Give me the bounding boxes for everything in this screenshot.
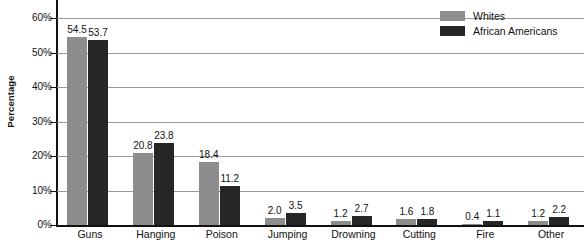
- x-axis-category-label: Guns: [57, 229, 123, 240]
- x-axis-category-label: Hanging: [123, 229, 189, 240]
- bar: [220, 186, 240, 225]
- y-axis-tick-mark: [50, 191, 56, 192]
- bar-value-label: 53.7: [85, 28, 111, 38]
- bar: [417, 219, 437, 225]
- bar: [154, 143, 174, 225]
- bar-chart: Percentage 0%10%20%30%40%50%60% 54.553.7…: [0, 0, 584, 246]
- bar: [199, 162, 219, 225]
- legend-item[interactable]: Whites: [440, 9, 584, 23]
- x-axis-category-label: Cutting: [386, 229, 452, 240]
- y-axis-tick-mark: [50, 53, 56, 54]
- x-axis-category-label: Fire: [452, 229, 518, 240]
- y-axis-tick-mark: [50, 156, 56, 157]
- y-axis-tick-label: 0%: [16, 220, 52, 230]
- legend-swatch: [440, 26, 465, 36]
- bar-value-label: 2.7: [349, 204, 375, 214]
- bar: [462, 224, 482, 225]
- bar-value-label: 1.1: [480, 209, 506, 219]
- bar: [396, 219, 416, 225]
- bar: [286, 213, 306, 225]
- y-axis-tick-label: 20%: [16, 151, 52, 161]
- bar-group: 0.41.1: [452, 18, 518, 225]
- chart-legend: WhitesAfrican Americans: [440, 9, 584, 39]
- plot-area: 54.553.720.823.818.411.22.03.51.22.71.61…: [57, 18, 584, 225]
- legend-label: Whites: [473, 10, 505, 22]
- bar-group: 1.22.7: [321, 18, 387, 225]
- bar: [265, 218, 285, 225]
- bar-value-label: 11.2: [217, 174, 243, 184]
- bar-group: 2.03.5: [255, 18, 321, 225]
- x-axis-category-label: Drowning: [321, 229, 387, 240]
- bar-value-label: 2.2: [546, 205, 572, 215]
- y-axis-tick-mark: [50, 225, 56, 226]
- bar: [483, 221, 503, 225]
- bar-group: 1.22.2: [518, 18, 584, 225]
- bar-group: 18.411.2: [189, 18, 255, 225]
- bar: [133, 153, 153, 225]
- y-axis-tick-mark: [50, 87, 56, 88]
- y-axis-tick-mark: [50, 18, 56, 19]
- bar: [549, 217, 569, 225]
- y-axis-tick-label: 50%: [16, 48, 52, 58]
- legend-swatch: [440, 11, 465, 21]
- bar: [352, 216, 372, 225]
- y-axis-tick-label: 40%: [16, 82, 52, 92]
- bar: [528, 221, 548, 225]
- bar: [67, 37, 87, 225]
- legend-label: African Americans: [473, 25, 558, 37]
- y-axis-tick-labels: 0%10%20%30%40%50%60%: [12, 0, 52, 246]
- x-axis-category-label: Poison: [189, 229, 255, 240]
- bar-group: 54.553.7: [57, 18, 123, 225]
- y-axis-tick-mark: [50, 122, 56, 123]
- x-axis-category-label: Jumping: [255, 229, 321, 240]
- x-axis-category-label: Other: [518, 229, 584, 240]
- legend-item[interactable]: African Americans: [440, 24, 584, 38]
- y-axis-tick-label: 30%: [16, 117, 52, 127]
- bar-group: 20.823.8: [123, 18, 189, 225]
- bar-value-label: 23.8: [151, 131, 177, 141]
- y-axis-tick-label: 10%: [16, 186, 52, 196]
- bar-value-label: 3.5: [283, 201, 309, 211]
- bar-value-label: 1.8: [414, 207, 440, 217]
- bar-group: 1.61.8: [386, 18, 452, 225]
- bar-value-label: 20.8: [130, 141, 156, 151]
- bar: [88, 40, 108, 225]
- bar: [331, 221, 351, 225]
- x-axis-baseline: [57, 225, 584, 227]
- bar-value-label: 18.4: [196, 150, 222, 160]
- y-axis-tick-label: 60%: [16, 13, 52, 23]
